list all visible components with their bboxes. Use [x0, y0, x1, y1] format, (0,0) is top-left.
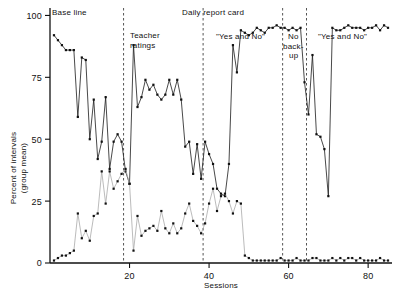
data-point-marker: [140, 235, 142, 237]
data-point-marker: [379, 29, 381, 31]
data-point-marker: [375, 24, 377, 26]
phase-label-teacher-ratings-line2: ratings: [130, 41, 155, 50]
data-point-marker: [168, 79, 170, 81]
data-point-marker: [307, 113, 309, 115]
phase-label-yes-and-no-second: "Yes and No": [318, 32, 367, 41]
data-point-marker: [315, 133, 317, 135]
data-point-marker: [97, 212, 99, 214]
data-series-layer: [53, 24, 389, 261]
y-tick-label: 50: [32, 135, 42, 145]
data-point-marker: [355, 27, 357, 29]
data-point-marker: [232, 212, 234, 214]
data-point-marker: [85, 59, 87, 61]
data-point-marker: [280, 27, 282, 29]
data-point-marker: [252, 259, 254, 261]
data-point-marker: [371, 27, 373, 29]
data-point-marker: [53, 259, 55, 261]
data-point-marker: [244, 254, 246, 256]
data-point-marker: [124, 168, 126, 170]
x-tick-label: 60: [283, 271, 293, 281]
phase-label-group: Base lineDaily report cardTeacherratings…: [52, 8, 367, 60]
y-axis-title-line2: (group mean): [19, 143, 28, 194]
data-point-marker: [295, 257, 297, 259]
data-point-marker: [331, 257, 333, 259]
data-point-marker: [284, 259, 286, 261]
data-point-marker: [291, 27, 293, 29]
data-point-marker: [327, 195, 329, 197]
data-point-marker: [144, 230, 146, 232]
data-point-marker: [53, 34, 55, 36]
data-point-marker: [184, 212, 186, 214]
data-point-marker: [148, 227, 150, 229]
y-tick-label: 25: [32, 197, 42, 207]
data-point-marker: [327, 259, 329, 261]
data-point-marker: [196, 143, 198, 145]
data-point-marker: [156, 230, 158, 232]
data-point-marker: [184, 146, 186, 148]
data-point-marker: [77, 116, 79, 118]
data-point-marker: [117, 133, 119, 135]
data-point-marker: [347, 24, 349, 26]
data-point-marker: [256, 27, 258, 29]
x-tick-label: 80: [363, 271, 373, 281]
data-point-marker: [81, 237, 83, 239]
chart-canvas: 0255075100 20406080 Base lineDaily repor…: [0, 0, 400, 299]
data-point-marker: [136, 106, 138, 108]
data-point-marker: [220, 193, 222, 195]
data-point-marker: [212, 188, 214, 190]
data-point-marker: [172, 94, 174, 96]
data-point-marker: [216, 188, 218, 190]
data-point-marker: [335, 259, 337, 261]
data-point-marker: [57, 257, 59, 259]
data-point-marker: [73, 49, 75, 51]
data-point-marker: [256, 259, 258, 261]
data-point-marker: [105, 96, 107, 98]
data-point-marker: [359, 257, 361, 259]
data-point-marker: [351, 257, 353, 259]
x-tick-group: 20406080: [124, 263, 373, 281]
data-point-marker: [120, 141, 122, 143]
x-axis-title: Sessions: [204, 281, 238, 290]
phase-label-baseline: Base line: [52, 8, 87, 17]
series-line-upper-series: [54, 25, 388, 196]
data-point-marker: [61, 254, 63, 256]
data-point-marker: [359, 27, 361, 29]
data-point-marker: [343, 259, 345, 261]
data-point-marker: [311, 54, 313, 56]
data-point-marker: [77, 212, 79, 214]
data-point-marker: [363, 259, 365, 261]
data-point-marker: [132, 250, 134, 252]
data-point-marker: [204, 141, 206, 143]
data-point-marker: [61, 44, 63, 46]
phase-label-no-backup-line1: No: [288, 32, 299, 41]
data-point-marker: [113, 141, 115, 143]
data-point-marker: [367, 259, 369, 261]
data-point-marker: [148, 89, 150, 91]
data-point-marker: [220, 195, 222, 197]
data-point-marker: [315, 257, 317, 259]
data-point-marker: [319, 259, 321, 261]
data-point-marker: [228, 163, 230, 165]
data-point-marker: [212, 163, 214, 165]
data-point-marker: [268, 259, 270, 261]
data-point-marker: [69, 49, 71, 51]
chart-figure: 0255075100 20406080 Base lineDaily repor…: [0, 0, 400, 299]
data-point-marker: [65, 49, 67, 51]
x-tick-label: 20: [124, 271, 134, 281]
data-point-marker: [236, 200, 238, 202]
data-point-marker: [176, 79, 178, 81]
data-point-marker: [307, 259, 309, 261]
data-point-marker: [383, 24, 385, 26]
data-point-marker: [192, 173, 194, 175]
data-point-marker: [117, 180, 119, 182]
data-point-marker: [89, 240, 91, 242]
data-point-marker: [160, 210, 162, 212]
data-point-marker: [299, 259, 301, 261]
data-point-marker: [248, 257, 250, 259]
phase-label-teacher-ratings-line1: Teacher: [130, 31, 160, 40]
phase-label-daily-report-card: Daily report card: [182, 8, 244, 17]
data-point-marker: [232, 44, 234, 46]
data-point-marker: [280, 257, 282, 259]
data-point-marker: [101, 170, 103, 172]
data-point-marker: [140, 96, 142, 98]
